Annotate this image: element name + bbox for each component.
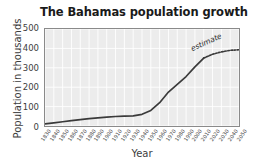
y-tick-label: 400 <box>23 43 39 53</box>
y-tick-label: 500 <box>23 23 39 33</box>
x-axis-title: Year <box>44 148 240 159</box>
y-tick-label: 200 <box>23 82 39 92</box>
y-tick-label: 300 <box>23 63 39 73</box>
chart-title: The Bahamas population growth <box>40 5 240 19</box>
y-axis-tick-labels: 0100200300400500 <box>0 28 42 127</box>
x-axis-tick-labels: 1830184018501860187018801890190019101920… <box>44 128 240 146</box>
y-tick-label: 100 <box>23 102 39 112</box>
y-tick-label: 0 <box>34 122 39 132</box>
chart-figure: The Bahamas population growth Population… <box>0 0 254 166</box>
